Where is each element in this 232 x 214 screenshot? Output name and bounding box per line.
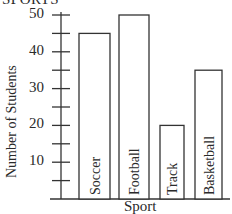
- y-axis-label: Number of Students: [4, 65, 20, 178]
- bar-chart: SoccerFootballTrackBasketball: [0, 0, 232, 214]
- x-axis-label: Sport: [124, 198, 157, 214]
- bars: SoccerFootballTrackBasketball: [79, 15, 222, 199]
- bar-label: Track: [165, 163, 180, 195]
- y-tick-label: 50: [20, 5, 44, 22]
- y-tick-label: 40: [20, 42, 44, 59]
- y-tick-label: 30: [20, 79, 44, 96]
- y-tick-label: 10: [20, 152, 44, 169]
- y-tick-label: 20: [20, 115, 44, 132]
- bar-label: Basketball: [202, 136, 217, 195]
- bar-label: Football: [127, 148, 142, 195]
- bar-label: Soccer: [88, 157, 103, 195]
